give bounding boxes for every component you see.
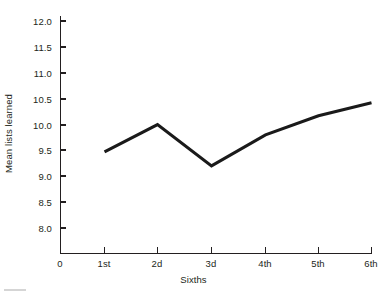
y-tick-label-8-0: 8.0 [24, 223, 52, 234]
plot-area [0, 0, 387, 299]
y-tick-marks [61, 21, 67, 228]
y-tick-label-10-5: 10.5 [20, 94, 52, 105]
page-edge-artifact [4, 288, 26, 293]
x-tick-label-4th: 4th [258, 258, 272, 269]
x-tick-label-2d: 2d [152, 258, 163, 269]
y-tick-label-11-0: 11.0 [20, 68, 52, 79]
y-axis-title-wrap: Mean lists learned [0, 128, 68, 142]
chart-figure: 8.0 8.5 9.0 9.5 10.0 10.5 11.0 11.5 12.0… [0, 0, 387, 299]
y-tick-label-9-5: 9.5 [24, 145, 52, 156]
x-tick-label-origin: 0 [57, 258, 62, 269]
x-tick-label-6th: 6th [364, 258, 378, 269]
x-tick-marks [61, 247, 372, 254]
x-tick-label-3d: 3d [206, 258, 217, 269]
x-axis-title: Sixths [0, 274, 387, 285]
y-tick-label-9-0: 9.0 [24, 171, 52, 182]
y-axis-title: Mean lists learned [3, 74, 14, 194]
data-line-series-0 [105, 103, 372, 166]
y-tick-label-11-5: 11.5 [20, 42, 52, 53]
y-tick-label-8-5: 8.5 [24, 197, 52, 208]
x-tick-label-1st: 1st [98, 258, 111, 269]
y-tick-label-12-0: 12.0 [20, 16, 52, 27]
x-tick-label-5th: 5th [311, 258, 325, 269]
